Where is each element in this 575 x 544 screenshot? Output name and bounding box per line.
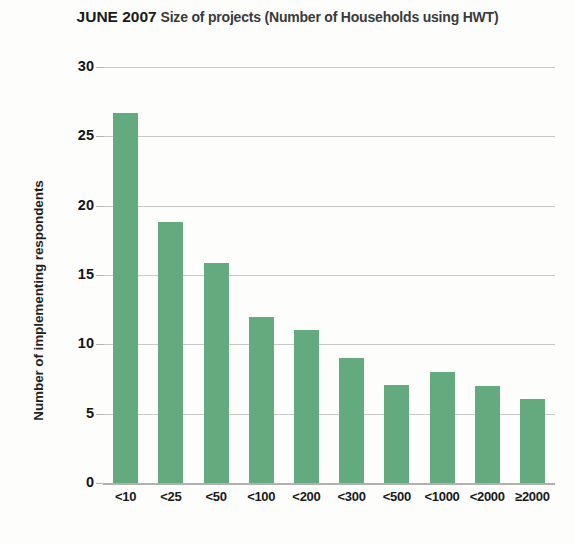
x-axis-tick-label: <200: [280, 489, 332, 504]
chart-title-rest: Size of projects (Number of Households u…: [161, 9, 499, 25]
x-axis-tick-label: <50: [190, 489, 242, 504]
y-axis-tick-mark: [96, 414, 104, 415]
x-axis-tick-labels: <10<25<50<100<200<300<500<1000<2000≥2000: [103, 489, 555, 513]
x-axis-tick-label: <2000: [461, 489, 513, 504]
bar: [158, 222, 183, 483]
bar: [339, 358, 364, 483]
bar: [204, 263, 229, 483]
bar-chart: JUNE 2007 Size of projects (Number of Ho…: [0, 0, 575, 544]
x-axis-tick-label: <10: [100, 489, 152, 504]
bar: [430, 372, 455, 483]
chart-title-strong: JUNE 2007: [77, 8, 157, 25]
y-axis-tick-mark: [96, 275, 104, 276]
y-axis-title: Number of implementing respondents: [31, 136, 46, 466]
chart-title: JUNE 2007 Size of projects (Number of Ho…: [0, 8, 575, 26]
y-axis-tick-mark: [96, 206, 104, 207]
bar: [384, 385, 409, 483]
x-axis-tick-label: <25: [145, 489, 197, 504]
y-axis-tick-mark: [96, 136, 104, 137]
x-axis-tick-label: ≥2000: [506, 489, 558, 504]
bar: [249, 317, 274, 483]
bar: [294, 330, 319, 483]
y-axis-tick-label: 15: [58, 267, 94, 282]
gridline: [103, 483, 555, 485]
bar: [475, 386, 500, 483]
x-axis-tick-label: <100: [235, 489, 287, 504]
x-axis-tick-label: <500: [371, 489, 423, 504]
x-axis-tick-label: <1000: [416, 489, 468, 504]
y-axis-tick-mark: [96, 483, 104, 484]
bars-layer: [103, 67, 555, 483]
y-axis-tick-label: 20: [58, 198, 94, 213]
x-axis-tick-label: <300: [326, 489, 378, 504]
y-axis-tick-label: 25: [58, 128, 94, 143]
y-axis-tick-label: 0: [58, 475, 94, 490]
y-axis-tick-label: 10: [58, 336, 94, 351]
y-axis-tick-mark: [96, 67, 104, 68]
bar: [113, 113, 138, 483]
y-axis-tick-label: 5: [58, 406, 94, 421]
y-axis-tick-label: 30: [58, 59, 94, 74]
bar: [520, 399, 545, 483]
y-axis-tick-mark: [96, 344, 104, 345]
plot-area: [103, 67, 555, 483]
